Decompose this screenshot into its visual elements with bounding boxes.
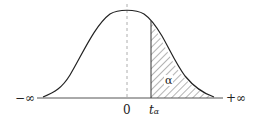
pos-infinity-label: +∞ [226, 92, 246, 104]
t-alpha-label: tα [149, 104, 159, 116]
zero-label: 0 [123, 104, 131, 116]
alpha-area-label: α [164, 75, 173, 86]
alpha-subscript: α [154, 107, 159, 116]
neg-infinity-label: −∞ [15, 92, 35, 104]
hatched-area [150, 15, 215, 100]
